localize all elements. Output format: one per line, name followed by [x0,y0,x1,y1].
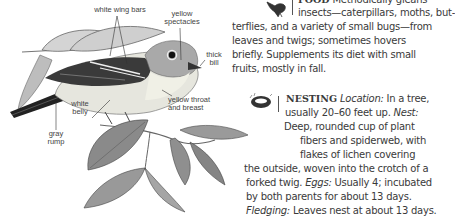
nesting-line-4: fibers and spiderweb, with [300,134,426,148]
fledging-label: Fledging: [246,205,290,216]
food-divider [292,0,293,15]
location-label: Location: [340,93,384,104]
label-yellow-throat: yellow throat and breast [168,96,220,112]
food-line-2: insects—caterpillars, moths, but- [298,6,455,20]
label-white-belly: white belly [68,100,92,116]
nesting-line-7: forked twig. Eggs: Usually 4; incubated [246,176,432,190]
food-line-5: briefly. Supplements its diet with small [232,48,416,62]
food-line-6: fruits, mostly in fall. [232,62,326,76]
label-line: spectacles [160,18,204,26]
label-gray-rump: gray rump [44,130,68,146]
nesting-line-9: Fledging: Leaves nest at about 13 days. [246,204,437,218]
nest-icon [248,92,274,110]
food-heading: FOOD [298,0,330,5]
label-thick-bill: thick bill [203,51,225,67]
label-line: rump [44,138,68,146]
food-line-3: terflies, and a variety of small bugs—fr… [232,20,432,34]
nesting-text: forked twig. [246,177,305,188]
nesting-line-1: NESTING Location: In a tree, [286,92,429,106]
nesting-line-8: by both parents for about 13 days. [246,190,412,204]
label-line: bill [203,59,225,67]
label-line: and breast [168,104,220,112]
nesting-line-3: Deep, rounded cup of plant [284,120,415,134]
nesting-line-2: usually 20–60 feet up. Nest: [285,106,418,120]
food-text: Methodically gleans [330,0,428,5]
nesting-heading: NESTING [286,93,337,104]
eggs-label: Eggs: [305,177,331,188]
label-yellow-spectacles: yellow spectacles [160,10,204,26]
label-line: belly [68,108,92,116]
nesting-line-5: flakes of lichen covering [300,148,415,162]
nest-label: Nest: [394,107,419,118]
label-white-wing-bars: white wing bars [90,6,150,14]
nesting-text: usually 20–60 feet up. [285,107,394,118]
eggs-text: Usually 4; incubated [332,177,432,188]
nesting-divider [278,96,279,112]
location-text: In a tree, [384,93,430,104]
food-line-4: leaves and twigs; sometimes hovers [232,34,406,48]
fledging-text: Leaves nest at about 13 days. [290,205,437,216]
bird-icon [266,0,288,18]
bird-illustration: white wing bars yellow spectacles thick … [0,0,250,215]
nesting-line-6: the outside, woven into the crotch of a [244,162,428,176]
